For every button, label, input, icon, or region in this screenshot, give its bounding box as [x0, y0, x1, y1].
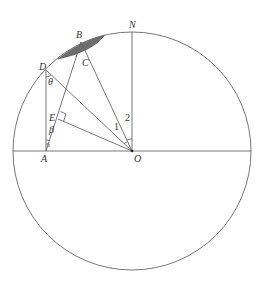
- label-B: B: [76, 29, 82, 40]
- label-beta: β: [48, 124, 54, 135]
- label-angle-1: 1: [114, 121, 119, 132]
- angle-arc-2: [127, 139, 132, 140]
- label-N: N: [128, 19, 137, 30]
- label-theta: θ: [48, 76, 53, 87]
- segment-EO: [58, 119, 132, 151]
- label-C: C: [82, 57, 89, 68]
- label-E: E: [48, 112, 55, 123]
- label-D: D: [38, 61, 47, 72]
- point-O-dot: [131, 150, 134, 153]
- label-A: A: [40, 153, 48, 164]
- angle-arc-beta: [46, 140, 50, 141]
- geometry-diagram: N B C D E A O θ β 1 2: [0, 0, 264, 290]
- label-O: O: [134, 153, 141, 164]
- label-angle-2: 2: [125, 112, 130, 123]
- angle-arc-1: [124, 142, 127, 144]
